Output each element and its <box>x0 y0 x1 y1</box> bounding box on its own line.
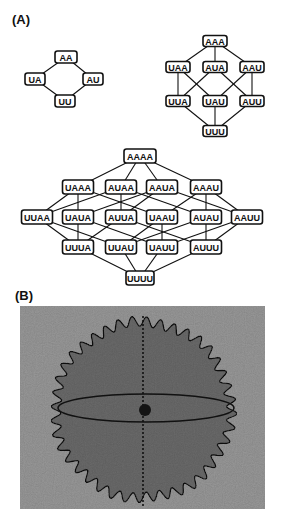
node-UUA: UUA <box>166 96 190 107</box>
center-spot <box>139 404 151 416</box>
node-AUUU: AUUU <box>191 240 222 254</box>
node-label: UUUU <box>127 274 153 284</box>
panel-a-lattices: AAUAAUUUAAAUAAAUAAAUUUAUAUAUUUUUAAAAUAAA… <box>22 36 265 286</box>
node-UUAU: UUAU <box>106 240 137 254</box>
node-label: AUAA <box>108 183 134 193</box>
node-label: AAUU <box>234 213 260 223</box>
lattice-length-4: AAAAUAAAAUAAAAUAAAAUUUAAUAUAAUUAUAAUAUAU… <box>22 149 263 285</box>
node-label: UAAU <box>149 213 175 223</box>
node-label: UUU <box>205 127 225 137</box>
node-label: AA <box>60 53 73 63</box>
node-label: AUAU <box>193 213 219 223</box>
node-label: AAAU <box>193 183 219 193</box>
node-label: UUAU <box>108 243 134 253</box>
node-label: AUA <box>205 63 225 73</box>
node-UUU: UUU <box>203 126 227 137</box>
lattice-length-3: AAAUAAAUAAAUUUAUAUAUUUUU <box>166 36 264 137</box>
node-UU: UU <box>55 95 75 107</box>
lattice-length-2: AAUAAUUU <box>25 51 103 107</box>
node-UUUU: UUUU <box>126 271 154 285</box>
node-UAA: UAA <box>166 62 190 73</box>
node-label: UAA <box>168 63 188 73</box>
node-UA: UA <box>25 73 45 85</box>
node-AAA: AAA <box>203 36 227 47</box>
node-label: AUUA <box>108 213 134 223</box>
node-label: AAAA <box>127 152 153 162</box>
node-label: AU <box>87 75 100 85</box>
node-UAUU: UAUU <box>147 240 178 254</box>
node-UUUA: UUUA <box>63 240 94 254</box>
node-AA: AA <box>55 51 77 63</box>
node-label: UAAA <box>65 183 91 193</box>
node-UAAA: UAAA <box>63 180 94 194</box>
node-AAUA: AAUA <box>147 180 178 194</box>
node-AUUA: AUUA <box>106 210 137 224</box>
node-label: AAUA <box>149 183 175 193</box>
node-AUU: AUU <box>240 96 264 107</box>
node-label: AUUU <box>193 243 219 253</box>
node-AAAU: AAAU <box>191 180 222 194</box>
node-AU: AU <box>83 73 103 85</box>
node-label: UU <box>59 97 72 107</box>
panel-b-micrograph <box>20 306 265 509</box>
node-label: UAU <box>205 97 225 107</box>
node-AAU: AAU <box>240 62 264 73</box>
node-label: UUA <box>168 97 188 107</box>
node-label: UUUA <box>65 243 91 253</box>
node-AAAA: AAAA <box>124 149 156 163</box>
node-label: UA <box>29 75 42 85</box>
node-AAUU: AAUU <box>232 210 263 224</box>
node-label: AAU <box>242 63 262 73</box>
node-UUAA: UUAA <box>22 210 53 224</box>
lattice-diagrams: AAUAAUUUAAAUAAAUAAAUUUAUAUAUUUUUAAAAUAAA… <box>0 0 281 514</box>
node-UAAU: UAAU <box>147 210 178 224</box>
node-label: UUAA <box>24 213 50 223</box>
node-label: AAA <box>205 37 225 47</box>
node-label: UAUA <box>65 213 91 223</box>
node-UAU: UAU <box>203 96 227 107</box>
node-label: UAUU <box>149 243 175 253</box>
node-AUAU: AUAU <box>191 210 222 224</box>
node-AUA: AUA <box>203 62 227 73</box>
node-AUAA: AUAA <box>106 180 137 194</box>
node-UAUA: UAUA <box>63 210 94 224</box>
node-label: AUU <box>242 97 262 107</box>
